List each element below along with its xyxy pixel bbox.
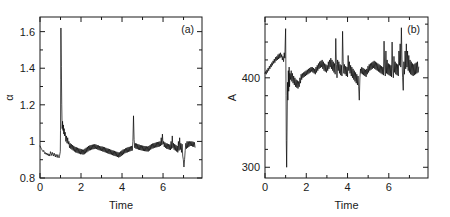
panel-tag: (b): [407, 23, 420, 35]
y-tick-label: 1.2: [20, 99, 35, 111]
y-tick-label: 1: [29, 135, 35, 147]
y-tick-label: 1.6: [20, 26, 35, 38]
x-tick-label: 4: [119, 181, 125, 193]
x-tick-label: 0: [37, 181, 43, 193]
plot-area-a: 02460.811.21.41.6Timeα(a): [0, 0, 225, 217]
y-tick-label: 0.8: [20, 172, 35, 184]
chart-panel-a: 02460.811.21.41.6Timeα(a): [0, 0, 225, 217]
plot-frame: [265, 17, 428, 178]
plot-area-b: 0246300400TimeA(b): [225, 0, 450, 217]
y-axis-title: A: [226, 93, 238, 101]
y-axis-title: α: [3, 94, 15, 101]
y-tick-label: 300: [242, 161, 260, 173]
x-tick-label: 6: [386, 181, 392, 193]
x-tick-label: 2: [78, 181, 84, 193]
y-tick-label: 400: [242, 72, 260, 84]
x-tick-label: 0: [262, 181, 268, 193]
x-tick-label: 2: [303, 181, 309, 193]
chart-panel-b: 0246300400TimeA(b): [225, 0, 450, 217]
x-tick-label: 4: [344, 181, 350, 193]
data-trace-alpha: [40, 28, 195, 167]
x-axis-title: Time: [109, 199, 133, 211]
figure-container: 02460.811.21.41.6Timeα(a) 0246300400Time…: [0, 0, 450, 217]
x-tick-label: 6: [160, 181, 166, 193]
y-tick-label: 1.4: [20, 62, 35, 74]
data-trace-A: [265, 28, 419, 168]
x-axis-title: Time: [334, 199, 358, 211]
panel-tag: (a): [181, 23, 194, 35]
